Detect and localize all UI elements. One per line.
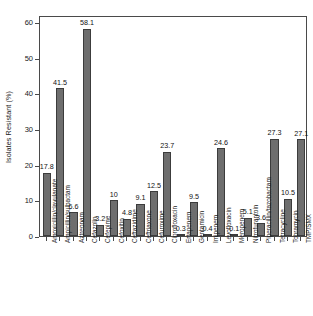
bar-value-label: 9.5 xyxy=(181,192,207,201)
x-axis-tick xyxy=(153,237,154,241)
x-axis-tick xyxy=(207,237,208,241)
y-tick-label: 60 xyxy=(25,17,33,28)
x-axis-label: Ampicillin/sulbactam xyxy=(63,185,73,243)
y-tick-mark xyxy=(35,237,39,238)
bar-value-label: 27.3 xyxy=(262,128,288,137)
bar-value-label: 10 xyxy=(101,190,127,199)
y-axis-tick: 60 xyxy=(0,23,39,24)
x-axis-tick xyxy=(126,237,127,241)
bar-chart-figure: Isolates Resistant (%) 0102030405060 17.… xyxy=(0,0,313,316)
x-axis-tick xyxy=(99,237,100,241)
y-axis-tick: 30 xyxy=(0,130,39,131)
bar xyxy=(83,29,91,236)
y-axis-title: Isolates Resistant (%) xyxy=(2,16,16,238)
x-axis-tick xyxy=(260,237,261,241)
y-tick-label: 30 xyxy=(25,124,33,135)
x-axis-label: Amoxicillin/clavulanate xyxy=(50,179,60,243)
bar-value-label: 58.1 xyxy=(74,18,100,27)
x-axis-tick xyxy=(274,237,275,241)
bar-value-label: 27.1 xyxy=(288,129,313,138)
y-axis-tick: 10 xyxy=(0,201,39,202)
x-axis-tick xyxy=(46,237,47,241)
x-axis-tick xyxy=(86,237,87,241)
x-axis-tick xyxy=(113,237,114,241)
x-axis-tick xyxy=(59,237,60,241)
y-tick-label: 50 xyxy=(25,53,33,64)
x-axis-label: Piperacillin/tazobactam xyxy=(264,177,274,243)
x-axis-tick xyxy=(193,237,194,241)
x-axis-tick xyxy=(247,237,248,241)
x-axis-tick xyxy=(300,237,301,241)
y-tick-label: 20 xyxy=(25,160,33,171)
y-axis-tick: 40 xyxy=(0,94,39,95)
x-axis-tick xyxy=(140,237,141,241)
y-axis-tick: 0 xyxy=(0,237,39,238)
x-axis-tick xyxy=(233,237,234,241)
x-axis-tick xyxy=(180,237,181,241)
y-tick-label: 0 xyxy=(29,231,33,242)
bar-value-label: 41.5 xyxy=(47,78,73,87)
x-axis-tick xyxy=(220,237,221,241)
y-tick-label: 10 xyxy=(25,195,33,206)
bar-value-label: 23.7 xyxy=(154,141,180,150)
y-tick-label: 40 xyxy=(25,88,33,99)
x-axis-tick xyxy=(287,237,288,241)
x-axis-tick xyxy=(73,237,74,241)
x-axis-tick xyxy=(166,237,167,241)
x-axis-label: TMP/SMX xyxy=(304,214,313,243)
bar-value-label: 24.6 xyxy=(208,138,234,147)
y-axis-tick: 50 xyxy=(0,59,39,60)
